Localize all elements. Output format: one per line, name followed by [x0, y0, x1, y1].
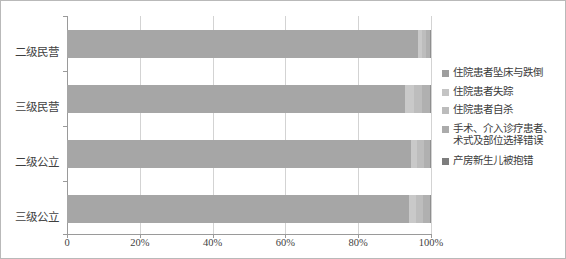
chart-legend: 住院患者坠床与跌倒住院患者失踪住院患者自杀手术、介入诊疗患者、 术式及部位选择错… — [442, 67, 564, 173]
plot-area — [67, 16, 431, 234]
y-tick-1 — [63, 71, 67, 72]
legend-label: 住院患者失踪 — [453, 86, 513, 99]
legend-label: 住院患者自杀 — [453, 104, 513, 117]
legend-label: 住院患者坠床与跌倒 — [453, 67, 543, 80]
chart-figure: 二级民营 三级民营 二级公立 三级公立 020%40%60%80%100% 住院… — [0, 0, 566, 259]
legend-item[interactable]: 住院患者坠床与跌倒 — [442, 67, 564, 80]
bar-segment — [414, 85, 422, 113]
bar-segment — [67, 140, 411, 168]
y-tick-label-1: 三级民营 — [15, 102, 59, 114]
bar-segment — [417, 140, 424, 168]
legend-item[interactable]: 产房新生儿被抱错 — [442, 155, 564, 168]
bar-row — [67, 30, 431, 58]
bar-row — [67, 195, 431, 223]
legend-label: 手术、介入诊疗患者、 术式及部位选择错误 — [453, 123, 553, 148]
y-tick-label-2: 二级公立 — [15, 157, 59, 169]
bar-row — [67, 85, 431, 113]
bar-segment — [405, 85, 414, 113]
y-tick-2 — [63, 126, 67, 127]
bar-segment — [67, 195, 409, 223]
square-marker-icon — [442, 70, 449, 77]
x-axis-line — [67, 234, 431, 235]
y-axis-labels: 二级民营 三级民营 二级公立 三级公立 — [1, 16, 63, 234]
bar-segment — [67, 85, 405, 113]
legend-label: 产房新生儿被抱错 — [453, 155, 533, 168]
bar-segment — [67, 30, 418, 58]
legend-item[interactable]: 住院患者失踪 — [442, 86, 564, 99]
bar-segment — [416, 195, 424, 223]
legend-item[interactable]: 住院患者自杀 — [442, 104, 564, 117]
x-axis-labels: 020%40%60%80%100% — [67, 237, 431, 253]
x-tick-label-0: 0 — [64, 237, 69, 248]
bar-segment — [430, 140, 431, 168]
square-marker-icon — [442, 126, 449, 133]
y-tick-label-3: 三级公立 — [15, 212, 59, 224]
y-tick-label-0: 二级民营 — [15, 47, 59, 59]
x-tick-label-3: 60% — [276, 237, 295, 248]
x-tick-label-5: 100% — [419, 237, 444, 248]
x-tick-label-1: 20% — [130, 237, 149, 248]
bar-row — [67, 140, 431, 168]
y-tick-3 — [63, 181, 67, 182]
x-tick-label-2: 40% — [203, 237, 222, 248]
bar-segment — [430, 195, 431, 223]
x-tick-label-4: 80% — [349, 237, 368, 248]
legend-item[interactable]: 手术、介入诊疗患者、 术式及部位选择错误 — [442, 123, 564, 148]
bar-segment — [430, 85, 431, 113]
gridline-100% — [431, 16, 432, 234]
bar-segment — [422, 85, 430, 113]
y-tick-0 — [63, 16, 67, 17]
square-marker-icon — [442, 89, 449, 96]
square-marker-icon — [442, 158, 449, 165]
bar-segment — [430, 30, 431, 58]
square-marker-icon — [442, 107, 449, 114]
